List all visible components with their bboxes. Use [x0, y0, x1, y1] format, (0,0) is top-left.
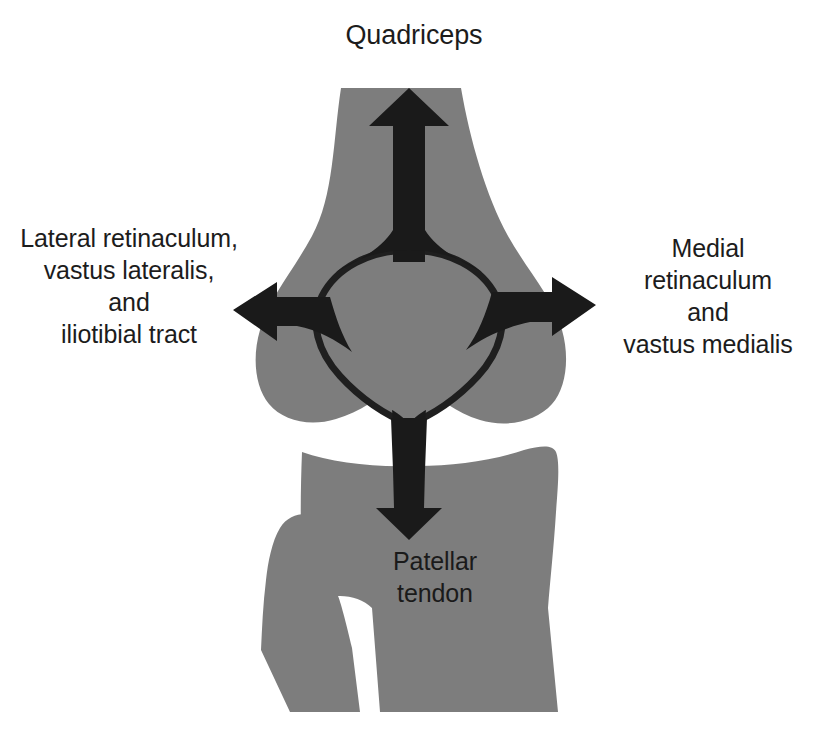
label-lateral-retinaculum: Lateral retinaculum, vastus lateralis, a…: [4, 222, 254, 350]
label-patellar-tendon: Patellar tendon: [345, 545, 525, 609]
patellar-tendon-shaft: [391, 418, 427, 508]
page-title: Quadriceps: [0, 18, 828, 53]
knee-anatomy-illustration: [0, 0, 828, 736]
anatomical-figure: Quadriceps Lateral retinaculum, vastus l…: [0, 0, 828, 736]
label-medial-retinaculum: Medial retinaculum and vastus medialis: [592, 232, 824, 360]
